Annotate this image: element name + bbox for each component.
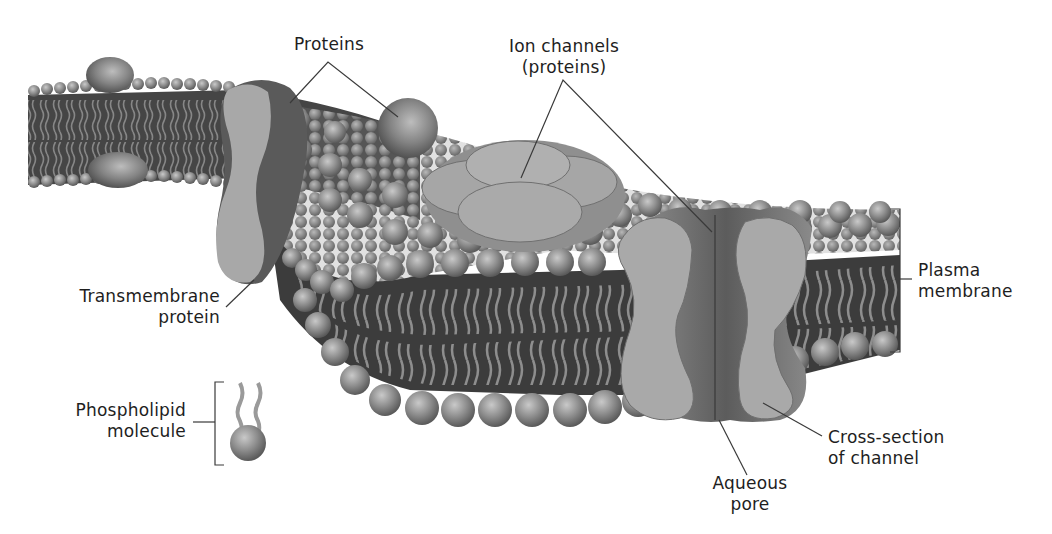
peripheral-protein-right (378, 98, 438, 158)
label-aqueous-pore: Aqueous pore (700, 473, 800, 515)
label-plasma-membrane: Plasma membrane (918, 260, 1048, 302)
label-ion-channels: Ion channels (proteins) (494, 36, 634, 78)
label-transmembrane-protein: Transmembrane protein (20, 286, 220, 328)
peripheral-protein-bottom (88, 152, 148, 188)
label-proteins: Proteins (286, 34, 372, 55)
label-cross-section: Cross-section of channel (828, 427, 968, 469)
peripheral-protein-top (86, 57, 134, 93)
phospholipid-molecule-icon (230, 383, 266, 461)
ion-channel-cross-section (618, 207, 812, 422)
label-phospholipid-molecule: Phospholipid molecule (20, 400, 186, 442)
